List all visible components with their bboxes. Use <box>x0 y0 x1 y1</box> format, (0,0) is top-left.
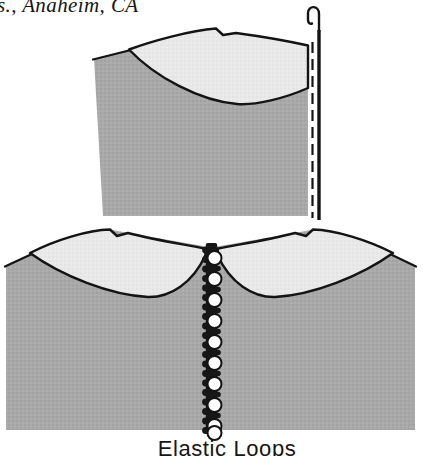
sewing-closure-illustration <box>0 0 423 456</box>
button <box>208 356 222 370</box>
button <box>208 377 222 391</box>
hook-icon <box>308 7 319 32</box>
figure-caption: Elastic Loops <box>32 436 422 456</box>
hook-closure-diagram <box>93 7 319 220</box>
elastic-loop-closure-diagram <box>5 230 416 441</box>
button <box>208 398 222 412</box>
button <box>208 251 222 265</box>
button <box>208 293 222 307</box>
button <box>208 314 222 328</box>
button <box>208 335 222 349</box>
scanned-page: { "page": { "credit_text": "s., Anaheim,… <box>0 0 423 456</box>
button <box>208 272 222 286</box>
